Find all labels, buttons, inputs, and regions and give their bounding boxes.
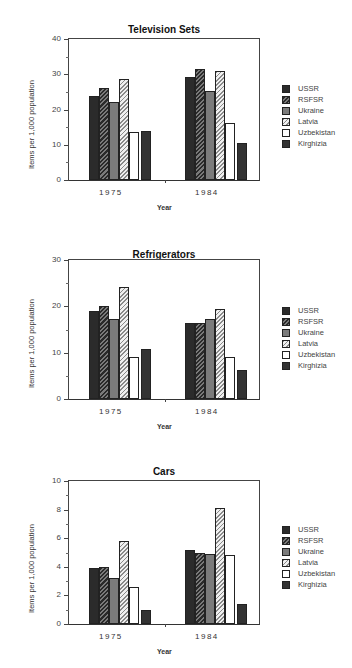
legend: USSRRSFSRUkraineLatviaUzbekistanKirghizi… — [282, 83, 335, 149]
y-axis-label: Items per 1,000 population — [27, 524, 36, 613]
legend-swatch-icon — [282, 118, 290, 126]
legend-item-ussr: USSR — [282, 524, 335, 535]
y-tick — [64, 538, 69, 539]
y-tick-label: 4 — [41, 562, 61, 571]
y-tick-label: 20 — [41, 301, 61, 310]
legend-item-ussr: USSR — [282, 305, 335, 316]
plot-area: 010203019751984Year — [68, 259, 260, 400]
bar-ussr-1984 — [185, 323, 195, 399]
plot-area: 01020304019751984Year — [68, 38, 260, 181]
bar-ussr-1975 — [89, 568, 99, 624]
legend-item-uzbekistan: Uzbekistan — [282, 349, 335, 360]
chart-title: Cars — [68, 466, 260, 477]
legend-label: RSFSR — [298, 95, 323, 104]
legend-swatch-icon — [282, 548, 290, 556]
y-tick-label: 40 — [41, 34, 61, 43]
bar-ukraine-1984 — [205, 554, 215, 624]
y-tick — [64, 39, 69, 40]
y-tick — [64, 260, 69, 261]
y-minor-tick — [66, 57, 69, 58]
bar-rsfsr-1984 — [195, 323, 205, 399]
y-minor-tick — [66, 553, 69, 554]
y-tick-label: 0 — [41, 175, 61, 184]
y-tick — [64, 567, 69, 568]
x-tick-label: 1984 — [195, 407, 219, 416]
legend-swatch-icon — [282, 526, 290, 534]
bar-uzbekistan-1975 — [129, 587, 139, 624]
y-tick-label: 20 — [41, 105, 61, 114]
y-tick — [64, 110, 69, 111]
legend-swatch-icon — [282, 318, 290, 326]
y-minor-tick — [66, 162, 69, 163]
x-tick — [165, 624, 166, 627]
legend-label: USSR — [298, 525, 319, 534]
bar-kirghizia-1984 — [237, 370, 247, 399]
y-tick-label: 2 — [41, 590, 61, 599]
y-minor-tick — [66, 581, 69, 582]
y-tick — [64, 74, 69, 75]
legend-swatch-icon — [282, 581, 290, 589]
bar-ussr-1984 — [185, 550, 195, 624]
legend: USSRRSFSRUkraineLatviaUzbekistanKirghizi… — [282, 524, 335, 590]
bar-kirghizia-1975 — [141, 131, 151, 180]
legend-swatch-icon — [282, 362, 290, 370]
y-axis-label: Items per 1,000 population — [27, 80, 36, 169]
legend-swatch-icon — [282, 307, 290, 315]
x-tick — [165, 180, 166, 183]
bar-uzbekistan-1984 — [225, 123, 235, 180]
y-axis-label: Items per 1,000 population — [27, 299, 36, 388]
y-tick — [64, 306, 69, 307]
legend-swatch-icon — [282, 96, 290, 104]
legend-label: Ukraine — [298, 106, 324, 115]
legend-label: RSFSR — [298, 536, 323, 545]
legend-item-latvia: Latvia — [282, 338, 335, 349]
legend-label: RSFSR — [298, 317, 323, 326]
legend: USSRRSFSRUkraineLatviaUzbekistanKirghizi… — [282, 305, 335, 371]
legend-item-uzbekistan: Uzbekistan — [282, 568, 335, 579]
bar-ukraine-1975 — [109, 578, 119, 624]
legend-label: Uzbekistan — [298, 128, 335, 137]
bar-kirghizia-1975 — [141, 610, 151, 624]
bar-ussr-1975 — [89, 311, 99, 399]
bar-rsfsr-1975 — [99, 306, 109, 399]
legend-item-latvia: Latvia — [282, 557, 335, 568]
bar-latvia-1984 — [215, 309, 225, 399]
legend-label: Ukraine — [298, 547, 324, 556]
bar-ukraine-1984 — [205, 91, 215, 180]
legend-swatch-icon — [282, 340, 290, 348]
legend-swatch-icon — [282, 570, 290, 578]
legend-item-rsfsr: RSFSR — [282, 94, 335, 105]
legend-item-ukraine: Ukraine — [282, 327, 335, 338]
legend-swatch-icon — [282, 329, 290, 337]
legend-label: USSR — [298, 306, 319, 315]
legend-label: Latvia — [298, 117, 318, 126]
bar-uzbekistan-1984 — [225, 555, 235, 624]
x-tick-label: 1975 — [99, 407, 123, 416]
bar-uzbekistan-1984 — [225, 357, 235, 399]
y-tick-label: 6 — [41, 533, 61, 542]
y-minor-tick — [66, 495, 69, 496]
bar-latvia-1975 — [119, 541, 129, 624]
legend-item-rsfsr: RSFSR — [282, 535, 335, 546]
legend-item-uzbekistan: Uzbekistan — [282, 127, 335, 138]
x-axis-label: Year — [157, 204, 172, 211]
x-axis-label: Year — [157, 648, 172, 655]
y-tick — [64, 399, 69, 400]
legend-label: Kirghizia — [298, 361, 327, 370]
y-minor-tick — [66, 283, 69, 284]
y-tick — [64, 481, 69, 482]
x-tick-label: 1975 — [99, 632, 123, 641]
x-tick — [165, 399, 166, 402]
chart-title: Television Sets — [68, 24, 260, 35]
bar-uzbekistan-1975 — [129, 132, 139, 180]
legend-label: Kirghizia — [298, 139, 327, 148]
legend-swatch-icon — [282, 559, 290, 567]
bar-kirghizia-1975 — [141, 349, 151, 400]
bar-ukraine-1984 — [205, 319, 215, 399]
legend-label: Latvia — [298, 339, 318, 348]
bar-latvia-1975 — [119, 287, 129, 399]
x-tick-label: 1984 — [195, 188, 219, 197]
legend-label: Ukraine — [298, 328, 324, 337]
y-tick-label: 0 — [41, 394, 61, 403]
legend-item-ukraine: Ukraine — [282, 105, 335, 116]
